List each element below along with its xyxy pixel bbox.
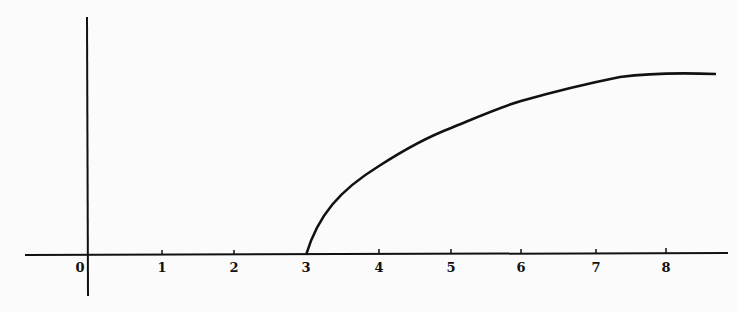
y-axis (87, 17, 88, 296)
chart: 012345678 (0, 0, 738, 312)
data-curve (306, 73, 716, 255)
x-axis (25, 253, 728, 255)
x-tick-label: 1 (157, 260, 166, 275)
x-tick-label: 5 (446, 260, 455, 275)
x-tick-label: 2 (229, 260, 238, 275)
x-tick-label: 0 (75, 260, 84, 275)
chart-plot (0, 0, 738, 312)
x-tick-label: 4 (374, 260, 383, 275)
x-tick-label: 3 (301, 260, 310, 275)
x-tick-label: 6 (516, 260, 525, 275)
x-tick-label: 8 (661, 260, 670, 275)
x-tick-label: 7 (591, 260, 600, 275)
